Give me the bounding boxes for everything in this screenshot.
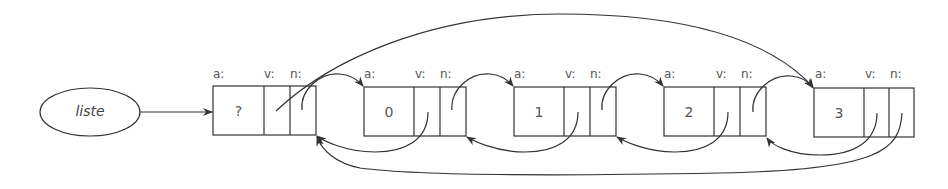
next-arrow-0-to-1 — [452, 74, 513, 110]
node-value-3: 3 — [814, 105, 864, 121]
field-label-n: n: — [440, 67, 452, 81]
field-label-n: n: — [741, 67, 753, 81]
doubly-linked-list-diagram — [0, 0, 948, 189]
field-label-a: a: — [213, 67, 224, 81]
field-label-v: v: — [264, 67, 275, 81]
node-value-1: 1 — [514, 104, 564, 120]
node-value-2: 2 — [664, 104, 714, 120]
node-value-0: 0 — [364, 104, 414, 120]
field-label-v: v: — [865, 67, 876, 81]
field-label-v: v: — [716, 67, 727, 81]
next-arrow-2-to-3 — [753, 76, 813, 112]
next-arrow-sentinel-to-0 — [302, 74, 363, 110]
field-label-n: n: — [290, 67, 302, 81]
field-label-n: n: — [590, 67, 602, 81]
field-label-v: v: — [415, 67, 426, 81]
field-label-n: n: — [890, 67, 902, 81]
head-label: liste — [40, 103, 140, 119]
field-label-a: a: — [514, 67, 525, 81]
prev-arrow-sentinel-to-3 — [276, 14, 813, 111]
field-label-v: v: — [565, 67, 576, 81]
field-label-a: a: — [664, 67, 675, 81]
node-value-sentinel: ? — [213, 103, 264, 119]
next-arrow-1-to-2 — [602, 74, 663, 110]
field-label-a: a: — [364, 67, 375, 81]
field-label-a: a: — [815, 67, 826, 81]
